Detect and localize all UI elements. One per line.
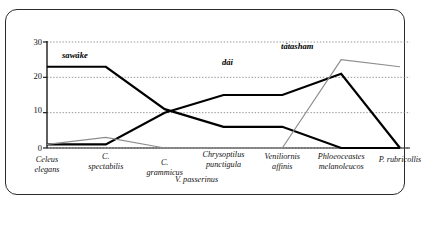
x-axis-center-note: V. passerinus <box>175 175 218 184</box>
ytick-10: 10 <box>26 105 42 115</box>
series-line-2 <box>47 60 400 148</box>
series-paths <box>47 60 400 148</box>
series-label-sawake: sawáke <box>62 50 88 60</box>
series-label-dai: dái <box>222 57 233 67</box>
series-line-0 <box>47 67 400 148</box>
series-label-tatasham: tátasham <box>281 41 313 51</box>
ytick-20: 20 <box>26 71 42 81</box>
ytick-30: 30 <box>26 37 42 47</box>
series-line-1 <box>47 74 400 148</box>
x-axis-label-6: P. rubricollis <box>360 155 426 165</box>
ytick-0: 0 <box>26 143 42 153</box>
